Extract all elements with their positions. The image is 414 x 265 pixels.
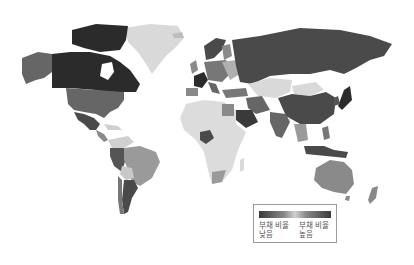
world-map <box>0 0 414 265</box>
legend-low-line2: 낮음 <box>259 230 289 239</box>
region-new-zealand <box>368 186 378 204</box>
legend-label-high: 부채 비율 높음 <box>299 221 329 239</box>
region-canada <box>52 52 140 94</box>
region-japan <box>338 86 352 110</box>
region-central-america <box>96 130 108 142</box>
legend-low-line1: 부채 비율 <box>259 221 289 230</box>
region-tasmania <box>345 196 350 201</box>
region-bolivia <box>120 166 134 180</box>
region-spain <box>186 88 198 96</box>
region-venezuela <box>108 136 134 148</box>
region-finland <box>222 44 232 60</box>
legend-high-line1: 부채 비율 <box>299 221 329 230</box>
region-alaska <box>22 52 52 84</box>
legend-high-line2: 높음 <box>299 230 329 239</box>
region-turkey <box>222 88 248 98</box>
region-argentina <box>122 180 138 214</box>
legend: 부채 비율 낮음 부채 비율 높음 <box>253 204 337 243</box>
region-mexico <box>74 112 100 130</box>
region-australia <box>314 160 354 194</box>
region-egypt <box>222 104 234 116</box>
legend-gradient-bar <box>259 211 331 218</box>
region-caribbean <box>104 124 122 130</box>
region-russia <box>232 28 392 84</box>
region-greenland <box>125 24 184 74</box>
region-philippines <box>322 126 330 140</box>
legend-label-low: 부채 비율 낮음 <box>259 221 289 239</box>
region-france <box>194 72 208 88</box>
region-united-states <box>66 88 124 118</box>
region-italy <box>208 82 220 94</box>
region-uk <box>190 60 198 74</box>
region-indonesia <box>304 146 348 158</box>
region-madagascar <box>240 158 244 172</box>
region-canada-islands <box>72 24 128 52</box>
region-southeast-asia <box>294 124 308 142</box>
